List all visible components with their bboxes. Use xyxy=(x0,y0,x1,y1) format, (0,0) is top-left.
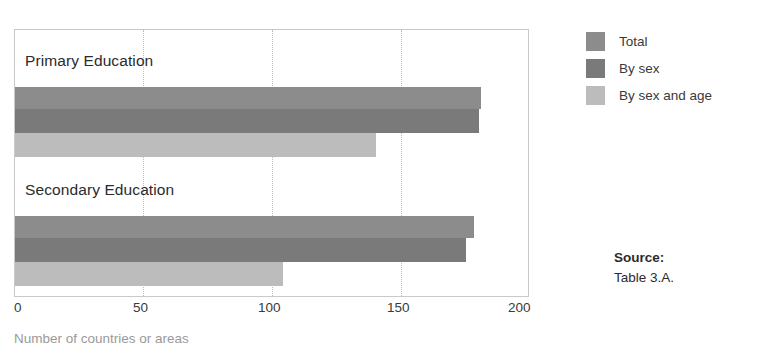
chart-legend: Total By sex By sex and age xyxy=(586,28,712,109)
x-tick-150: 150 xyxy=(387,300,410,315)
bar-secondary-total xyxy=(15,216,474,238)
x-tick-200: 200 xyxy=(508,300,531,315)
x-tick-100: 100 xyxy=(258,300,281,315)
legend-item-total: Total xyxy=(586,28,712,55)
x-tick-0: 0 xyxy=(14,300,22,315)
legend-item-by-sex: By sex xyxy=(586,55,712,82)
x-tick-50: 50 xyxy=(133,300,148,315)
source-heading: Source: xyxy=(614,248,674,268)
legend-swatch-by-sex-icon xyxy=(586,59,605,78)
legend-swatch-by-sex-and-age-icon xyxy=(586,86,605,105)
x-axis-tick-labels: 0 50 100 150 200 xyxy=(14,300,529,320)
bar-secondary-by-sex xyxy=(15,238,466,262)
legend-label-by-sex-and-age: By sex and age xyxy=(619,88,712,103)
legend-swatch-total-icon xyxy=(586,32,605,51)
legend-item-by-sex-and-age: By sex and age xyxy=(586,82,712,109)
bar-primary-total xyxy=(15,87,481,109)
source-value: Table 3.A. xyxy=(614,268,674,288)
group-label-primary-education: Primary Education xyxy=(25,52,153,70)
bar-primary-by-sex-and-age xyxy=(15,133,376,157)
legend-label-total: Total xyxy=(619,34,648,49)
bar-primary-by-sex xyxy=(15,109,479,133)
legend-label-by-sex: By sex xyxy=(619,61,660,76)
chart-plot-area: Primary Education Secondary Education xyxy=(14,29,529,297)
bar-secondary-by-sex-and-age xyxy=(15,262,283,286)
chart-plot-inner: Primary Education Secondary Education xyxy=(15,30,528,296)
x-axis-title: Number of countries or areas xyxy=(14,331,189,346)
source-block: Source: Table 3.A. xyxy=(614,248,674,288)
group-label-secondary-education: Secondary Education xyxy=(25,181,174,199)
